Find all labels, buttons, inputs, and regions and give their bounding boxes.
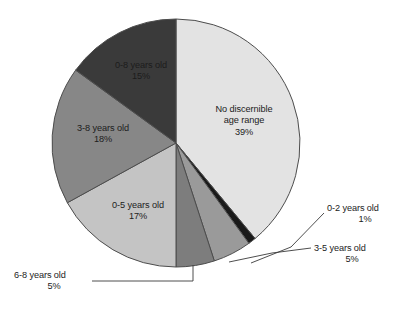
slice-label-no-discernible: No discernible age range 39% (196, 104, 292, 138)
callout-label-age-0-2: 0-2 years old 1% (327, 203, 403, 226)
slice-label-age-3-8: 3-8 years old 18% (58, 123, 148, 146)
slice-label-age-0-5: 0-5 years old 17% (93, 200, 183, 223)
slice-label-age-0-8: 0-8 years old 15% (96, 60, 186, 83)
callout-value-age-0-2: 1% (327, 214, 403, 225)
pie-chart-canvas (0, 0, 404, 313)
slice-label-age-0-5-name: 0-5 years old (112, 200, 164, 210)
callout-label-age-6-8-name: 6-8 years old (14, 270, 66, 280)
callout-label-age-6-8: 6-8 years old 5% (14, 270, 94, 293)
callout-label-age-0-2-name: 0-2 years old (327, 203, 379, 213)
callout-value-age-6-8: 5% (14, 281, 94, 292)
slice-label-age-3-8-name: 3-8 years old (77, 123, 129, 133)
callout-label-age-3-5-name: 3-5 years old (314, 243, 366, 253)
slice-value-no-discernible: 39% (196, 127, 292, 138)
slice-label-age-0-8-name: 0-8 years old (115, 60, 167, 70)
slice-value-age-0-8: 15% (96, 71, 186, 82)
callout-label-age-3-5: 3-5 years old 5% (314, 243, 390, 266)
slice-label-no-discernible-line1: No discernible (216, 104, 273, 114)
slice-value-age-3-8: 18% (58, 134, 148, 145)
callout-value-age-3-5: 5% (314, 254, 390, 265)
pie-chart: No discernible age range 39% 0-8 years o… (0, 0, 404, 313)
slice-label-no-discernible-line2: age range (224, 115, 264, 125)
slice-value-age-0-5: 17% (93, 211, 183, 222)
